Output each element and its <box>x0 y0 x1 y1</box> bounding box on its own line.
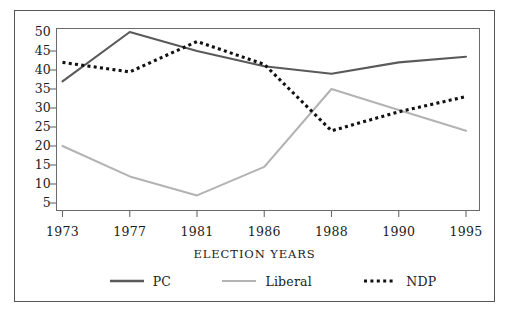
x-tick-label: 1986 <box>248 226 281 239</box>
series-line-ndp <box>63 42 467 131</box>
x-tick-label: 1990 <box>382 226 415 239</box>
dotted-line-black-swatch <box>363 276 397 286</box>
x-tick-label: 1973 <box>46 226 79 239</box>
x-tick-label: 1981 <box>180 226 213 239</box>
series-line-liberal <box>63 89 467 195</box>
x-axis-title: ELECTION YEARS <box>0 247 509 261</box>
legend-item-ndp[interactable]: NDP <box>363 274 436 289</box>
x-axis-tick-labels: 1973197719811986198819901995 <box>0 226 509 244</box>
x-tick-label: 1977 <box>113 226 146 239</box>
x-tick-label: 1988 <box>315 226 348 239</box>
legend-label-liberal: Liberal <box>265 274 312 289</box>
y-axis-tick-marks <box>49 51 56 203</box>
chart-legend: PC Liberal NDP <box>56 268 480 294</box>
solid-line-dark-swatch <box>110 276 144 286</box>
x-tick-label: 1995 <box>449 226 482 239</box>
x-axis-tick-marks <box>63 211 467 217</box>
chart-plot-svg <box>0 0 509 314</box>
chart-figure: 5101520253035404550 19731977198119861988… <box>0 0 509 314</box>
legend-label-pc: PC <box>153 274 171 289</box>
legend-item-pc[interactable]: PC <box>110 274 171 289</box>
solid-line-gray-swatch <box>222 276 256 286</box>
data-series-layer <box>63 32 467 195</box>
legend-item-liberal[interactable]: Liberal <box>222 274 312 289</box>
legend-label-ndp: NDP <box>406 274 436 289</box>
series-line-pc <box>63 32 467 81</box>
